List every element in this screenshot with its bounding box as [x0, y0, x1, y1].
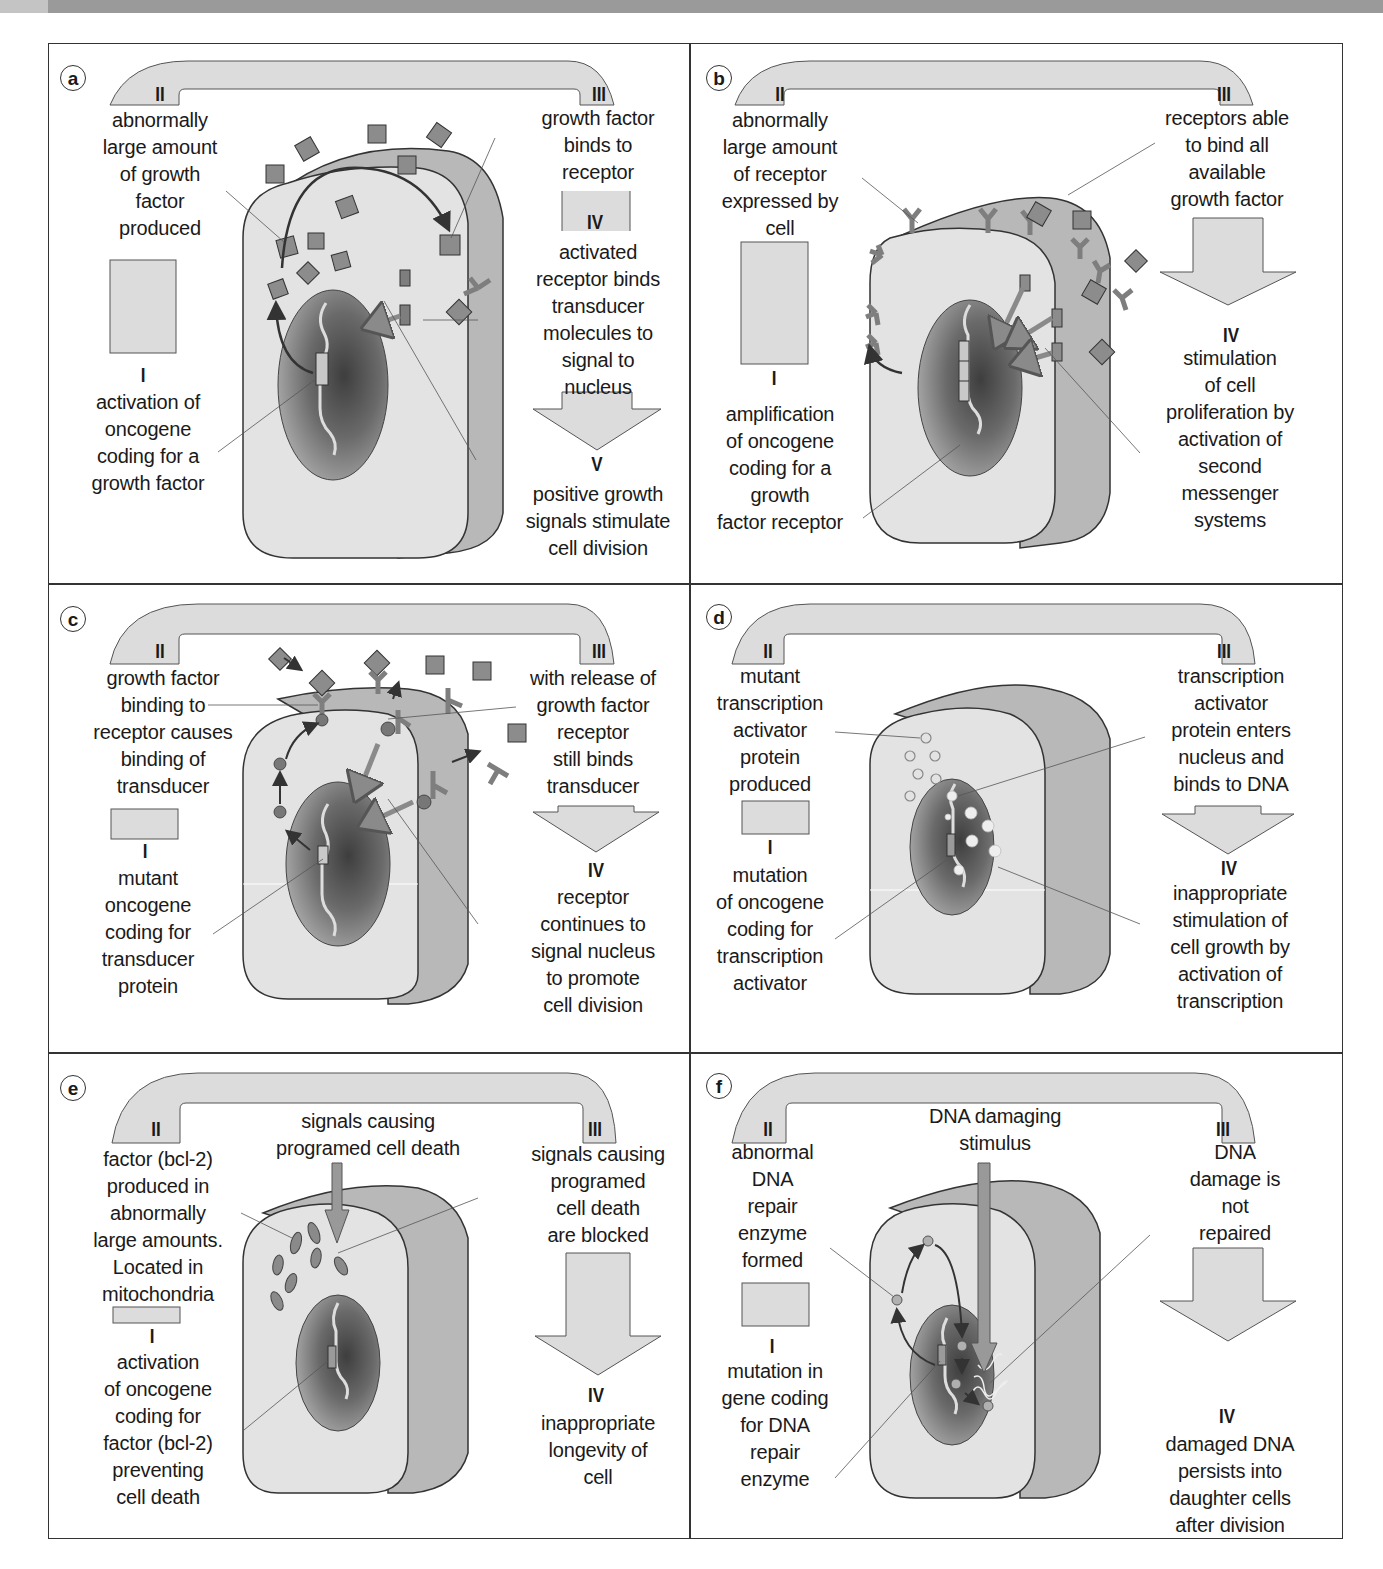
step-II-numeral: II — [755, 83, 806, 106]
label-step-II: abnormal DNA repair enzyme formed — [700, 1139, 845, 1274]
label-step-II: factor (bcl-2) produced in abnormally la… — [63, 1146, 253, 1308]
label-step-III: with release of growth factor receptor s… — [503, 665, 683, 800]
panel-b: b II III I IV abnormally large amount of… — [690, 43, 1343, 583]
label-step-II: growth factor binding to receptor causes… — [63, 665, 263, 800]
step-I-numeral: I — [120, 840, 171, 863]
step-IV-arrow — [535, 1253, 661, 1375]
step-I-box — [113, 1307, 180, 1323]
step-II-numeral: II — [743, 640, 794, 663]
step-III-numeral: III — [574, 640, 625, 663]
step-I-box — [742, 801, 809, 834]
nucleus — [296, 1295, 380, 1431]
flow-arch — [732, 604, 1255, 664]
panel-c: c II III I IV growth factor binding to r… — [48, 584, 689, 1052]
flow-arch — [735, 61, 1253, 105]
oncogene — [947, 834, 955, 856]
label-death-signal: signals causing programed cell death — [253, 1108, 483, 1162]
label-step-II: mutant transcription activator protein p… — [690, 663, 850, 798]
label-step-II: abnormally large amount of receptor expr… — [690, 107, 870, 242]
step-IV-numeral: IV — [570, 211, 621, 234]
panel-f: f II III I IV DNA damaging stimulus abno… — [690, 1053, 1343, 1539]
label-step-I: activation of oncogene coding for factor… — [68, 1349, 248, 1511]
step-II-numeral: II — [135, 640, 186, 663]
label-step-I: amplification of oncogene coding for a g… — [690, 401, 870, 536]
label-step-I: mutant oncogene coding for transducer pr… — [63, 865, 233, 1000]
label-step-I: mutation of oncogene coding for transcri… — [690, 862, 850, 997]
label-step-II: abnormally large amount of growth factor… — [70, 107, 250, 242]
step-IV-arrow — [1160, 218, 1296, 305]
step-I-box — [742, 1283, 809, 1326]
step-I-numeral: I — [745, 836, 796, 859]
top-bar — [0, 0, 1383, 13]
label-step-III: DNA damage is not repaired — [1160, 1139, 1310, 1247]
step-IV-numeral: IV — [1202, 1405, 1253, 1428]
panel-badge: a — [60, 65, 86, 91]
step-I-numeral: I — [127, 1325, 178, 1348]
label-step-IV: receptor continues to signal nucleus to … — [503, 884, 683, 1019]
label-step-III: receptors able to bind all available gro… — [1142, 105, 1312, 213]
oncogene — [316, 353, 328, 385]
panel-badge: f — [706, 1073, 732, 1099]
panel-a: a II III I IV V abnormally large amount … — [48, 43, 689, 583]
flow-arch — [110, 604, 614, 664]
panel-e: e II III I IV signals causing programed … — [48, 1053, 689, 1539]
step-I-numeral: I — [118, 364, 169, 387]
step-I-box — [110, 260, 176, 353]
step-III-numeral: III — [574, 83, 625, 106]
label-step-V: positive growth signals stimulate cell d… — [503, 481, 693, 562]
label-step-I: activation of oncogene coding for a grow… — [53, 389, 243, 497]
label-step-IV: inappropriate stimulation of cell growth… — [1140, 880, 1320, 1015]
label-damage-stimulus: DNA damaging stimulus — [880, 1103, 1110, 1157]
label-step-IV: damaged DNA persists into daughter cells… — [1140, 1431, 1320, 1539]
flow-arch — [110, 61, 614, 105]
label-step-III: transcription activator protein enters n… — [1146, 663, 1316, 798]
label-step-IV: activated receptor binds transducer mole… — [508, 239, 688, 401]
step-III-numeral: III — [1199, 83, 1250, 106]
step-II-numeral: II — [743, 1118, 794, 1141]
label-step-IV: stimulation of cell proliferation by act… — [1140, 345, 1320, 534]
top-bar-tab — [0, 0, 48, 13]
label-step-III: growth factor binds to receptor — [518, 105, 678, 186]
label-step-III: signals causing programed cell death are… — [508, 1141, 688, 1249]
step-IV-numeral: IV — [1204, 857, 1255, 880]
step-I-numeral: I — [749, 367, 800, 390]
step-I-box — [111, 809, 178, 839]
panel-d: d II III I IV mutant transcription activ… — [690, 584, 1343, 1052]
step-IV-numeral: IV — [571, 859, 622, 882]
panel-badge: b — [706, 65, 732, 91]
label-step-IV: inappropriate longevity of cell — [508, 1410, 688, 1491]
step-I-box — [741, 242, 808, 364]
step-III-numeral: III — [570, 1118, 621, 1141]
oncogene — [328, 1346, 336, 1368]
panel-badge: d — [706, 604, 732, 630]
step-I-numeral: I — [747, 1335, 798, 1358]
panel-badge: e — [60, 1075, 86, 1101]
amplified-oncogene — [959, 341, 969, 401]
step-III-numeral: III — [1198, 1118, 1249, 1141]
step-IV-numeral: IV — [571, 1384, 622, 1407]
step-II-numeral: II — [131, 1118, 182, 1141]
panel-badge: c — [60, 606, 86, 632]
nucleus — [278, 290, 388, 480]
step-IV-arrow — [1160, 1248, 1296, 1341]
step-V-numeral: V — [572, 453, 623, 476]
step-IV-arrow — [533, 806, 659, 852]
label-step-I: mutation in gene coding for DNA repair e… — [695, 1358, 855, 1493]
nucleus — [286, 782, 390, 946]
step-IV-arrow — [1162, 806, 1294, 854]
step-IV-numeral: IV — [1206, 324, 1257, 347]
step-III-numeral: III — [1199, 640, 1250, 663]
step-II-numeral: II — [135, 83, 186, 106]
